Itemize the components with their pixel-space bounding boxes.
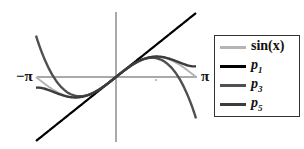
legend-swatch-p5: [220, 103, 246, 106]
legend-item-sin: sin(x): [215, 38, 301, 56]
legend-item-p3: p3: [215, 76, 301, 94]
legend-label-sin: sin(x): [251, 38, 284, 54]
x-axis-label: x: [154, 77, 157, 82]
legend-item-p5: p5: [215, 95, 301, 113]
legend-swatch-p3: [220, 84, 246, 87]
legend-item-p1: p1: [215, 57, 301, 75]
legend-swatch-p1: [220, 65, 246, 68]
legend: sin(x) p1 p3 p5: [214, 35, 300, 117]
legend-label-p5: p5: [251, 95, 263, 111]
tick-label-pos-pi: π: [201, 69, 209, 84]
legend-label-p1: p1: [251, 57, 263, 73]
legend-label-p3: p3: [251, 76, 263, 92]
tick-label-neg-pi: −π: [16, 69, 33, 84]
legend-swatch-sin: [220, 46, 246, 49]
